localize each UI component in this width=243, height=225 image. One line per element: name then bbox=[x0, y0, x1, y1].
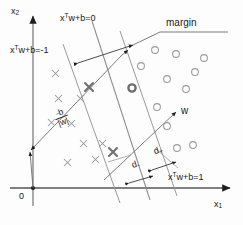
margin-double-arrow bbox=[78, 45, 133, 63]
hyperplane-zero-line bbox=[92, 21, 150, 200]
axis-label-x2: x2 bbox=[11, 7, 19, 17]
d-minus-arrow bbox=[129, 176, 153, 183]
bias-offset-line bbox=[31, 56, 121, 150]
figure-canvas bbox=[0, 0, 243, 225]
axis-label-x1: x1 bbox=[214, 200, 222, 210]
d-minus-guide-top bbox=[108, 155, 131, 162]
support-vector-o-marker bbox=[128, 84, 135, 91]
margin-label: margin bbox=[166, 18, 197, 29]
bias-offset-upper-tick bbox=[121, 50, 128, 56]
hyperplane-zero-label: xTw+b=0 bbox=[60, 13, 96, 23]
margin-leader-line bbox=[133, 32, 228, 45]
svm-margin-figure: x2 x1 0 xTw+b=0 xTw+b=-1 xTw+b=1 margin … bbox=[0, 0, 243, 225]
class-plus-markers bbox=[138, 47, 208, 152]
weight-vector-label: w bbox=[181, 106, 188, 117]
hyperplane-minus-one-label: xTw+b=-1 bbox=[10, 45, 49, 55]
hyperplane-plus-one-label: xTw+b=1 bbox=[168, 172, 204, 182]
origin-label: 0 bbox=[19, 192, 24, 201]
